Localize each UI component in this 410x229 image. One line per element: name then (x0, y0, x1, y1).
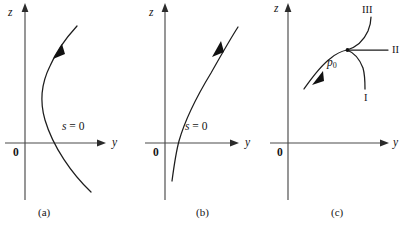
panel-c-branch-I-label: I (364, 93, 368, 104)
panel-c-branch-II-label: II (392, 45, 399, 56)
figure-canvas (0, 0, 410, 229)
panel-b-z-axis-arrowhead (162, 3, 169, 12)
panel-c-y-axis-label: y (393, 137, 398, 149)
panel-a-z-axis-arrowhead (22, 3, 29, 12)
panel-b-graphics (145, 3, 239, 200)
panel-b-origin-label: 0 (153, 147, 159, 159)
panel-b-caption: (b) (196, 207, 209, 218)
panel-a-y-axis-label: y (112, 137, 117, 149)
panel-c-junction-point-marker (346, 48, 350, 52)
panel-b-z-axis-label: z (149, 7, 153, 19)
panel-c-point-p0-subscript: 0 (333, 61, 337, 70)
panel-c-z-axis-arrowhead (285, 3, 292, 12)
panel-c-caption: (c) (331, 207, 343, 218)
panel-b-s-equals-zero-label: s = 0 (185, 121, 207, 133)
panel-b-s-rest: = 0 (189, 120, 207, 132)
panel-c-z-axis-label: z (274, 3, 278, 15)
panel-a-caption: (a) (38, 207, 50, 218)
panel-c-branch-I-curve (347, 50, 365, 89)
panel-c-branch-III-label: III (362, 5, 373, 16)
panel-a-graphics (5, 3, 106, 200)
panel-a-z-axis-label: z (8, 7, 12, 19)
panel-a-s-rest: = 0 (66, 120, 84, 132)
panel-b-y-axis-arrowhead (230, 140, 239, 147)
panel-c-point-p0-base: p (327, 56, 333, 68)
panel-a-characteristic-curve (42, 26, 91, 192)
panel-b-y-axis-label: y (245, 137, 250, 149)
panel-b-characteristic-curve (172, 27, 238, 181)
panel-c-incoming-branch (304, 50, 347, 89)
panel-c-origin-label: 0 (277, 147, 283, 159)
panel-c-y-axis-arrowhead (380, 140, 389, 147)
panel-c-point-p0-label: p0 (327, 57, 337, 69)
panel-a-origin-label: 0 (13, 147, 19, 159)
panel-a-direction-arrowhead (53, 44, 65, 59)
panel-c-branch-III-curve (347, 17, 371, 50)
panel-a-y-axis-arrowhead (97, 140, 106, 147)
figure-container: z y 0 s = 0 (a) z y 0 s = 0 (b) z y 0 p0… (0, 0, 410, 229)
panel-c-direction-arrowhead (312, 71, 324, 85)
panel-a-s-equals-zero-label: s = 0 (62, 121, 84, 133)
panel-c-graphics (270, 3, 389, 200)
